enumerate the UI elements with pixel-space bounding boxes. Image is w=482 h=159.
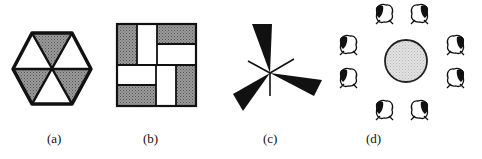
label-b: (b): [143, 131, 158, 147]
animal-figure: [340, 68, 357, 88]
pinwheel-bottom-left-shaded: [117, 85, 156, 106]
animal-figure: [376, 4, 393, 24]
animal-figure: [411, 4, 428, 24]
animal-figure: [411, 100, 428, 120]
panel-c-propeller: [233, 24, 322, 111]
animal-figure: [340, 35, 357, 55]
panel-b-pinwheel: [117, 24, 196, 106]
propeller-blade-right: [270, 73, 322, 96]
pinwheel-top-left-shaded: [117, 24, 137, 65]
panel-a-hexagon: [13, 33, 91, 104]
animal-figure: [447, 35, 464, 55]
hex-triangle-top: [32, 33, 72, 69]
label-a: (a): [47, 131, 61, 147]
hex-triangle-bottom-left: [13, 69, 52, 104]
panel-d-circle-animals: [340, 4, 464, 120]
label-d: (d): [366, 131, 381, 147]
pinwheel-bottom-right-shaded: [176, 65, 196, 106]
propeller-blade-left: [233, 73, 270, 111]
label-c: (c): [263, 131, 277, 147]
figure-canvas: [0, 0, 482, 159]
hex-triangle-bottom-right: [52, 69, 91, 104]
pinwheel-top-right-shaded: [157, 24, 196, 44]
central-circle: [385, 40, 427, 82]
animal-figure: [376, 100, 393, 120]
animal-figure: [447, 68, 464, 88]
